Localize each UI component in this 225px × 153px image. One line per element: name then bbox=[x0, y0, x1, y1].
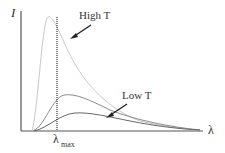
low-t-label: Low T bbox=[122, 89, 152, 101]
lambda-max-label: λ bbox=[53, 132, 59, 146]
x-axis-label: λ bbox=[208, 123, 214, 137]
y-axis-label: I bbox=[10, 5, 16, 20]
blackbody-radiation-diagram: I High T Low T λ λ max bbox=[0, 0, 225, 153]
mid-t-curve bbox=[33, 95, 200, 131]
high-t-label: High T bbox=[79, 9, 111, 21]
low-t-curve bbox=[34, 113, 200, 131]
lambda-max-subscript: max bbox=[61, 140, 75, 149]
